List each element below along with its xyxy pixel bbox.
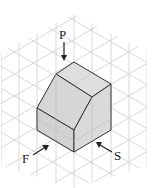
label-p: P [59, 27, 66, 42]
solid-block [37, 62, 111, 152]
label-s: S [114, 148, 121, 163]
arrow-s [100, 145, 112, 152]
label-f: F [22, 151, 29, 166]
isometric-diagram: P F S [0, 0, 153, 188]
